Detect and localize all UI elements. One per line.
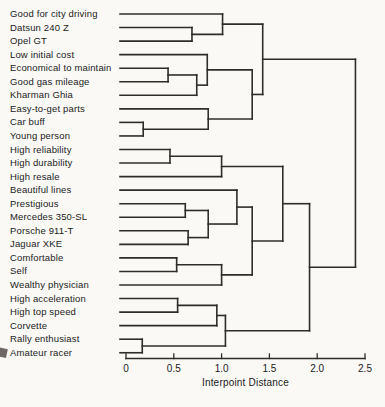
x-axis-tick-label: 2.0 <box>310 363 324 374</box>
x-axis-tick-label: 1.5 <box>262 363 276 374</box>
dendrogram-figure: Good for city drivingDatsun 240 ZOpel GT… <box>0 0 385 407</box>
dendrogram-plot: 00.51.01.52.02.5Interpoint Distance <box>0 0 385 407</box>
x-axis-tick-label: 1.0 <box>215 363 229 374</box>
x-axis-tick-label: 0.5 <box>167 363 181 374</box>
x-axis-tick-label: 0 <box>123 363 129 374</box>
x-axis-tick-label: 2.5 <box>358 363 372 374</box>
x-axis-title: Interpoint Distance <box>202 377 289 388</box>
